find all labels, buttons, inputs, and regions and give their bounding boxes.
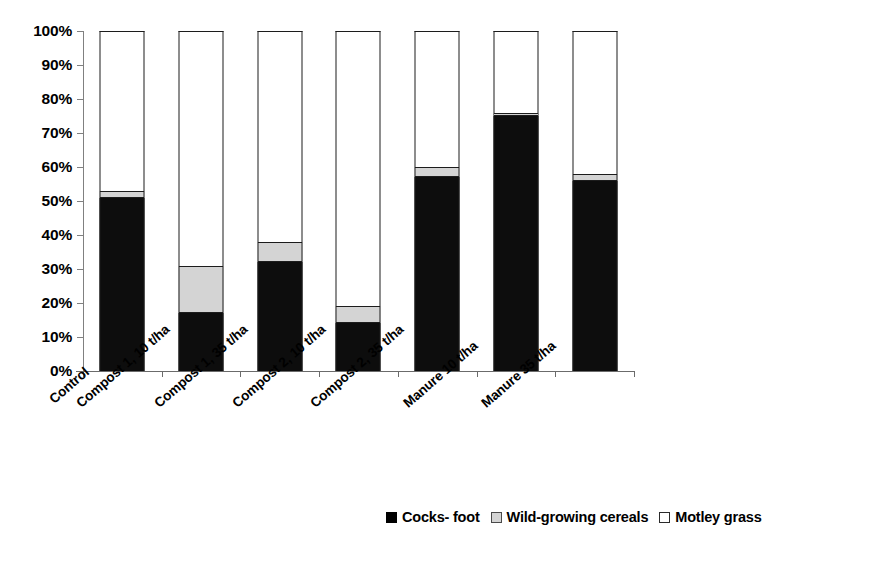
x-axis-category-labels: ControlCompost 1, 10 t/haCompost 1, 35 t… <box>0 0 893 561</box>
chart-legend: Cocks- footWild-growing cerealsMotley gr… <box>386 510 762 525</box>
legend-swatch-icon <box>386 512 397 523</box>
legend-label: Cocks- foot <box>402 510 480 525</box>
legend-item[interactable]: Wild-growing cereals <box>491 510 649 525</box>
legend-item[interactable]: Cocks- foot <box>386 510 480 525</box>
legend-label: Motley grass <box>675 510 761 525</box>
chart-container: 0%10%20%30%40%50%60%70%80%90%100% Contro… <box>0 0 893 561</box>
legend-swatch-icon <box>491 512 502 523</box>
legend-label: Wild-growing cereals <box>507 510 649 525</box>
legend-swatch-icon <box>659 512 670 523</box>
x-axis-category-label: Manure 35 t/ha <box>479 339 558 410</box>
x-axis-category-label: Manure 10 t/ha <box>401 339 480 410</box>
legend-item[interactable]: Motley grass <box>659 510 761 525</box>
